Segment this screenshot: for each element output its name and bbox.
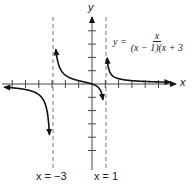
equation-numerator: x <box>153 30 161 42</box>
curve-branch-2 <box>56 49 103 100</box>
equation-denominator: (x − 1)(x + 3 <box>130 42 184 53</box>
equation-lhs: y = <box>113 36 127 47</box>
function-curves <box>4 49 170 134</box>
equation-fraction: x (x − 1)(x + 3 <box>130 30 184 53</box>
y-axis-label: y <box>88 2 94 13</box>
asymptote-right-label: x = 1 <box>94 171 118 182</box>
asymptote-left-label: x = −3 <box>36 171 67 182</box>
equation-label: y = x (x − 1)(x + 3 <box>113 30 184 53</box>
curve-branch-1 <box>4 87 49 134</box>
function-graph <box>0 0 192 185</box>
curve-branch-3 <box>107 58 170 82</box>
x-axis-label: x <box>180 77 186 88</box>
